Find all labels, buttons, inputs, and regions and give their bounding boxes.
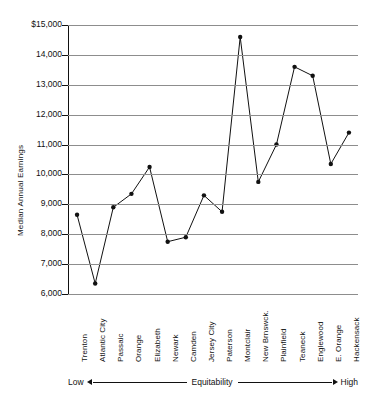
x-tick-label: New Brnswck. xyxy=(261,310,270,362)
data-point-marker xyxy=(220,210,224,214)
x-tick-label: Camden xyxy=(189,331,198,362)
x-tick-label: Atlantic City xyxy=(98,318,107,362)
gridline xyxy=(68,264,358,265)
y-tick-mark xyxy=(62,294,68,295)
y-tick-label: 8,000 xyxy=(6,228,62,238)
y-tick-label: 10,000 xyxy=(6,168,62,178)
gridline xyxy=(68,115,358,116)
x-tick-label: Hackensack xyxy=(352,317,361,362)
series-polyline xyxy=(77,37,349,284)
y-tick-label: 6,000 xyxy=(6,288,62,298)
data-point-marker xyxy=(147,165,151,169)
y-axis-ticks: $15,00014,00013,00012,00011,00010,0009,0… xyxy=(0,0,62,400)
data-point-marker xyxy=(347,130,351,134)
x-tick-label: Passaic xyxy=(116,333,125,362)
equitability-low-label: Low xyxy=(68,377,84,387)
x-tick-label: Trenton xyxy=(80,334,89,362)
x-tick-label: E. Orange xyxy=(334,325,343,362)
data-series-line xyxy=(68,25,358,294)
data-point-marker xyxy=(75,213,79,217)
data-point-marker xyxy=(202,193,206,197)
y-tick-mark xyxy=(62,55,68,56)
x-tick-label: Jersey City xyxy=(207,321,216,362)
y-tick-mark xyxy=(62,85,68,86)
y-tick-label: 11,000 xyxy=(6,139,62,149)
equitability-high-label: High xyxy=(341,377,358,387)
y-tick-mark xyxy=(62,234,68,235)
y-tick-label: 9,000 xyxy=(6,198,62,208)
y-tick-mark xyxy=(62,264,68,265)
data-point-marker xyxy=(184,235,188,239)
y-tick-label: 12,000 xyxy=(6,109,62,119)
arrow-right-icon xyxy=(333,379,338,385)
gridline xyxy=(68,145,358,146)
equitability-center-label: Equitability xyxy=(188,377,237,387)
x-axis-labels: TrentonAtlantic CityPassaicOrangeElizabe… xyxy=(68,296,358,366)
data-point-marker xyxy=(310,74,314,78)
y-tick-label: 13,000 xyxy=(6,79,62,89)
x-tick-label: Elizabeth xyxy=(153,328,162,362)
x-tick-label: Plainfield xyxy=(279,329,288,362)
gridline xyxy=(68,174,358,175)
x-tick-label: Teaneck xyxy=(298,332,307,363)
x-tick-label: Orange xyxy=(134,335,143,362)
gridline xyxy=(68,204,358,205)
y-tick-mark xyxy=(62,115,68,116)
plot-area xyxy=(68,25,358,294)
data-point-marker xyxy=(93,281,97,285)
data-point-marker xyxy=(238,35,242,39)
data-point-marker xyxy=(111,205,115,209)
equitability-line-left xyxy=(93,382,187,383)
x-tick-label: Montclair xyxy=(243,329,252,362)
data-point-marker xyxy=(329,162,333,166)
y-tick-label: $15,000 xyxy=(6,19,62,29)
data-point-marker xyxy=(256,180,260,184)
data-point-marker xyxy=(292,65,296,69)
y-tick-mark xyxy=(62,204,68,205)
x-tick-label: Newark xyxy=(171,334,180,362)
equitability-axis: Low Equitability High xyxy=(68,374,358,390)
y-tick-label: 14,000 xyxy=(6,49,62,59)
x-axis-line xyxy=(68,294,358,295)
y-tick-mark xyxy=(62,145,68,146)
data-point-marker xyxy=(165,239,169,243)
y-tick-mark xyxy=(62,25,68,26)
y-tick-label: 7,000 xyxy=(6,258,62,268)
gridline xyxy=(68,55,358,56)
gridline xyxy=(68,234,358,235)
data-point-marker xyxy=(129,192,133,196)
x-tick-label: Englewood xyxy=(316,322,325,363)
arrow-left-icon xyxy=(87,379,92,385)
chart-figure: Median Annual Earnings $15,00014,00013,0… xyxy=(0,0,372,400)
equitability-line-right xyxy=(238,382,332,383)
gridline xyxy=(68,25,358,26)
gridline xyxy=(68,85,358,86)
y-tick-mark xyxy=(62,174,68,175)
x-tick-label: Paterson xyxy=(225,329,234,362)
